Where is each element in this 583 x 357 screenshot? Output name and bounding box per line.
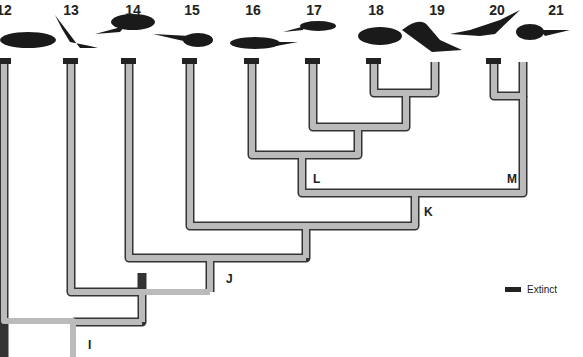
taxon-label: 17 [306,2,322,18]
taxon-label: 18 [368,2,384,18]
extinct-swatch [505,287,521,292]
taxon-label: 13 [63,2,79,18]
taxon-label: 20 [489,2,505,18]
node-label-l: L [313,172,320,186]
node-label-k: K [424,205,433,219]
cladogram: 12 13 14 15 16 17 18 19 20 21 I J K L M … [0,0,583,357]
taxon-label: 19 [429,2,445,18]
taxon-label: 15 [184,2,200,18]
node-label-i: I [88,338,91,352]
tree-branches [0,0,583,357]
taxon-label: 14 [125,2,141,18]
taxon-label: 16 [245,2,261,18]
node-label-j: J [226,272,233,286]
taxon-label: 21 [548,2,564,18]
legend-label: Extinct [527,284,557,295]
node-label-m: M [507,172,517,186]
legend: Extinct [505,284,557,295]
taxon-label: 12 [0,2,12,18]
animal-silhouettes [0,10,570,52]
